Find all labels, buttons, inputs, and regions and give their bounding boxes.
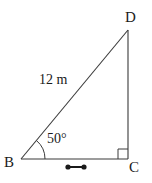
side-length-label-bd: 12 m [39, 73, 67, 87]
triangle-drawing [0, 0, 152, 183]
vertex-label-b: B [4, 155, 14, 170]
right-angle-square-c-icon [118, 149, 128, 159]
side-bd-hypotenuse [21, 30, 128, 159]
geometry-figure: B C D 12 m 50° [0, 0, 152, 183]
angle-arc-b-icon [37, 141, 45, 159]
vertex-label-d: D [125, 10, 136, 25]
angle-measure-label-b: 50° [47, 132, 67, 146]
vertex-label-c: C [129, 160, 139, 175]
segment-length-marker-icon [65, 164, 86, 169]
